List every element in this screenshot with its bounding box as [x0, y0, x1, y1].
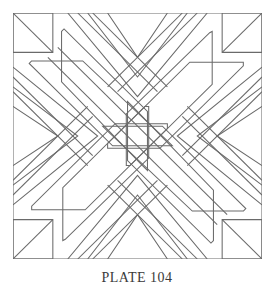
diagonal-stripe: [78, 13, 158, 92]
diagonal-stripe: [78, 180, 158, 259]
diagonal-stripe: [182, 77, 262, 156]
diagonal-stripe: [93, 185, 168, 259]
corner-diagonal-tr: [222, 13, 262, 52]
corner-diagonal-br: [222, 220, 262, 259]
diagonal-stripe: [108, 185, 183, 259]
panel-hexagon: [29, 61, 172, 146]
diagonal-stripe: [118, 180, 198, 259]
diagonal-stripe: [13, 116, 93, 195]
pattern-svg: [13, 13, 262, 259]
quilt-pattern-diagram: [13, 13, 262, 259]
diagonal-stripe: [13, 77, 93, 156]
diagonal-stripe: [93, 13, 168, 87]
panel-hexagon: [103, 126, 246, 211]
chevron-strip: [177, 67, 262, 205]
diagonal-stripe: [13, 106, 88, 180]
diagonal-stripe: [182, 116, 262, 195]
corner-diagonal-tl: [13, 13, 53, 52]
panel-hexagon: [62, 29, 148, 170]
corner-diagonal-bl: [13, 220, 53, 259]
chevron-strip: [13, 67, 98, 205]
diagonal-stripe: [187, 92, 262, 166]
diagonal-band-line: [48, 57, 217, 224]
panel-hexagon: [128, 102, 214, 243]
diagonal-stripe: [187, 106, 262, 180]
plate-caption: PLATE 104: [0, 270, 274, 286]
diagonal-stripe: [108, 13, 183, 87]
diagonal-stripe: [13, 92, 88, 166]
diagonal-stripe: [118, 13, 198, 92]
diagonal-band-line: [58, 47, 227, 214]
